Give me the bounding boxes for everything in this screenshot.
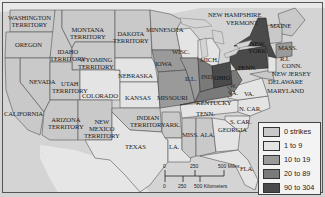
label-ind: IND.	[201, 73, 214, 80]
label-n-car: N. CAR.	[239, 105, 262, 112]
legend-item-3: 20 to 89	[263, 168, 321, 179]
label-va: VA.	[244, 90, 254, 97]
legend-label: 20 to 89	[284, 169, 310, 178]
label-wyoming: WYOMING TERRITORY	[78, 56, 114, 70]
scale-bar: 0 250 500 Miles 0 250 500 Kilometers	[162, 162, 262, 192]
scale-miles-0: 0	[163, 163, 166, 169]
label-delaware: DELAWARE	[268, 78, 303, 85]
label-miss: MISS.	[182, 131, 199, 138]
label-wva: W. VA.	[228, 82, 238, 96]
label-s-car: S. CAR.	[230, 118, 251, 125]
label-montana: MONTANA TERRITORY	[70, 26, 106, 40]
label-conn: CONN.	[282, 62, 302, 69]
legend-item-2: 10 to 19	[263, 154, 321, 165]
label-new-mexico: NEW MEXICO TERRITORY	[84, 118, 120, 139]
label-ri: R.I.	[280, 55, 290, 62]
label-oregon: OREGON	[15, 41, 42, 48]
legend-label: 90 to 304	[284, 183, 314, 192]
scale-km-500: 500 Kilometers	[194, 183, 227, 189]
label-ala: ALA.	[200, 131, 215, 138]
label-minnesota: MINNESOTA	[146, 26, 183, 33]
label-washington: WASHINGTON TERRITORY	[8, 14, 51, 28]
legend-swatch	[263, 141, 280, 151]
label-mich: MICH.	[200, 56, 218, 63]
label-ill: ILL.	[185, 75, 197, 82]
legend-swatch	[263, 183, 280, 193]
label-tenn: TENN.	[196, 110, 215, 117]
label-missouri: MISSOURI	[157, 94, 188, 101]
legend-item-1: 1 to 9	[263, 140, 321, 151]
label-new-york: NEW YORK	[248, 40, 266, 54]
legend-swatch	[263, 169, 280, 179]
label-maryland: MARYLAND	[267, 87, 304, 94]
legend-label: 1 to 9	[284, 141, 302, 150]
scale-miles-250: 250	[190, 163, 198, 169]
legend-label: 10 to 19	[284, 155, 310, 164]
scale-miles-500: 500 Miles	[218, 163, 239, 169]
legend-label: 0 strikes	[284, 127, 311, 136]
label-ohio: OHIO	[214, 74, 230, 81]
label-indian-territory: INDIAN TERRITORY	[130, 114, 166, 128]
label-ark: ARK.	[165, 121, 180, 128]
label-new-hampshire: NEW HAMPSHIRE	[208, 11, 261, 18]
strike-map: WASHINGTON TERRITORY OREGON IDAHO TERRIT…	[0, 0, 325, 197]
label-dakota: DAKOTA TERRITORY	[113, 30, 149, 44]
label-wisc: WISC.	[172, 48, 190, 55]
label-maine: MAINE	[270, 22, 291, 29]
legend-item-0: 0 strikes	[263, 126, 321, 137]
label-arizona: ARIZONA TERRITORY	[48, 116, 84, 130]
label-vermont: VERMONT	[226, 19, 258, 26]
label-mass: MASS.	[278, 44, 297, 51]
legend-swatch	[263, 127, 280, 137]
label-colorado: COLORADO	[82, 92, 118, 99]
legend-swatch	[263, 155, 280, 165]
scale-km-250: 250	[178, 183, 186, 189]
scale-km-0: 0	[163, 183, 166, 189]
label-iowa: IOWA	[155, 60, 172, 67]
label-kentucky: KENTUCKY	[196, 99, 231, 106]
label-la: LA.	[169, 143, 179, 150]
label-georgia: GEORGIA	[218, 126, 247, 133]
label-california: CALIFORNIA	[4, 110, 43, 117]
label-nebraska: NEBRASKA	[118, 72, 153, 79]
label-kansas: KANSAS	[125, 94, 151, 101]
legend-item-4: 90 to 304	[263, 182, 321, 193]
label-texas: TEXAS	[125, 143, 146, 150]
label-penn: PENN.	[238, 64, 256, 71]
label-new-jersey: NEW JERSEY	[272, 70, 311, 77]
legend: 0 strikes 1 to 9 10 to 19 20 to 89 90 to…	[258, 122, 321, 195]
